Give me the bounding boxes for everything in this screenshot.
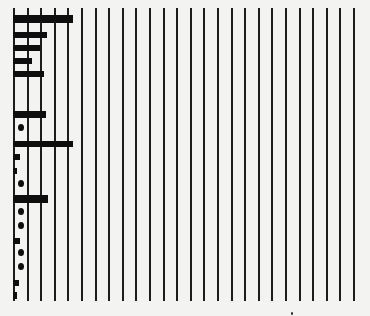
gridline — [217, 8, 219, 301]
gridline — [326, 8, 328, 301]
bar — [13, 111, 46, 118]
square-marker — [13, 238, 20, 244]
dot-marker — [18, 222, 24, 229]
gridline — [190, 8, 192, 301]
gridline — [299, 8, 301, 301]
gridline — [122, 8, 124, 301]
gridline — [203, 8, 205, 301]
gridline — [312, 8, 314, 301]
gridline — [27, 8, 29, 301]
bar — [13, 32, 47, 38]
gridline — [244, 8, 246, 301]
square-marker — [13, 154, 20, 160]
dot-marker — [18, 124, 24, 131]
dot-marker — [18, 180, 24, 187]
gridline — [40, 8, 42, 301]
gridline — [176, 8, 178, 301]
gridline — [339, 8, 341, 301]
square-marker — [13, 280, 19, 286]
gridline — [135, 8, 137, 301]
gridline — [54, 8, 56, 301]
gridline — [231, 8, 233, 301]
scan-speck — [291, 312, 293, 315]
square-marker — [13, 168, 17, 174]
bar — [13, 141, 73, 147]
bar — [13, 195, 48, 203]
bar — [13, 45, 40, 51]
bar — [13, 15, 73, 23]
gridline — [67, 8, 69, 301]
dot-marker — [18, 249, 24, 256]
gridline — [163, 8, 165, 301]
gridline — [258, 8, 260, 301]
bar — [13, 58, 32, 64]
gridline — [95, 8, 97, 301]
gridline — [353, 8, 355, 301]
gridline — [81, 8, 83, 301]
dot-marker — [18, 208, 24, 215]
dot-marker — [18, 263, 24, 270]
gridline — [108, 8, 110, 301]
gridline — [149, 8, 151, 301]
gridline — [285, 8, 287, 301]
bar — [13, 71, 44, 77]
gridline — [271, 8, 273, 301]
square-marker — [13, 292, 17, 299]
bar-chart — [0, 0, 370, 316]
